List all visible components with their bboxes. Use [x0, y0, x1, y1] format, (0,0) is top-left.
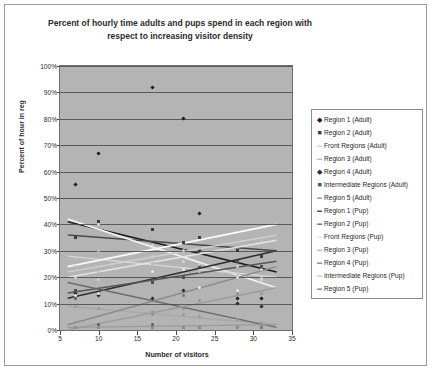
x-tick-label: 5	[58, 335, 62, 342]
data-point	[198, 265, 201, 268]
y-tick-label: 50%	[27, 195, 57, 202]
legend-marker-icon: ▬	[315, 193, 324, 202]
legend-item[interactable]: ▬Region 4 (Pup)	[315, 256, 420, 269]
data-point	[260, 239, 263, 242]
legend-marker-icon: ▬	[315, 206, 324, 215]
data-point	[260, 292, 263, 295]
data-point	[236, 249, 239, 252]
legend-label: Region 3 (Adult)	[324, 155, 372, 162]
x-tick-mark	[253, 331, 254, 335]
legend-label: Front Regions (Pup)	[324, 233, 383, 240]
data-point	[260, 276, 263, 279]
gridline	[60, 277, 292, 278]
legend-label: Region 4 (Pup)	[324, 259, 368, 266]
data-point	[74, 289, 77, 292]
legend-item[interactable]: ▬Region 5 (Pup)	[315, 282, 420, 295]
legend-marker-icon: ▬	[315, 219, 324, 228]
data-point	[97, 292, 100, 295]
data-point	[260, 255, 263, 258]
y-tick-label: 90%	[27, 89, 57, 96]
legend-label: Region 3 (Pup)	[324, 246, 368, 253]
data-point	[74, 326, 77, 329]
legend-item[interactable]: ▬Region 3 (Pup)	[315, 243, 420, 256]
data-point	[182, 313, 185, 316]
legend-item[interactable]: ■Intermediate Regions (Adult)	[315, 178, 420, 191]
x-tick-label: 30	[250, 335, 257, 342]
data-point	[151, 263, 154, 266]
gridline	[60, 251, 292, 252]
data-point	[74, 305, 77, 308]
y-axis-ticks: 0%10%20%30%40%50%60%70%80%90%100%	[21, 65, 57, 331]
legend-marker-icon: ▬	[315, 245, 324, 254]
trend-line	[68, 282, 277, 327]
legend-marker-icon: ▬	[315, 232, 324, 241]
x-tick-mark	[60, 331, 61, 335]
legend-label: Region 5 (Pup)	[324, 285, 368, 292]
chart-frame: Percent of hourly time adults and pups s…	[4, 4, 427, 366]
legend-item[interactable]: ▬Front Regions (Pup)	[315, 230, 420, 243]
y-tick-label: 100%	[27, 63, 57, 70]
x-tick-mark	[176, 331, 177, 335]
legend-item[interactable]: ▬Region 1 (Pup)	[315, 204, 420, 217]
chart-legend: ◆Region 1 (Adult)■Region 2 (Adult)▬Front…	[311, 109, 423, 299]
legend-label: Region 2 (Adult)	[324, 129, 372, 136]
gridline	[60, 172, 292, 173]
data-point	[151, 281, 154, 284]
legend-marker-icon: ▬	[315, 154, 324, 163]
legend-label: Region 2 (Pup)	[324, 220, 368, 227]
x-tick-label: 20	[172, 335, 179, 342]
legend-marker-icon: ■	[315, 180, 324, 189]
x-tick-label: 10	[95, 335, 102, 342]
data-point	[198, 236, 201, 239]
legend-item[interactable]: ▬Region 5 (Adult)	[315, 191, 420, 204]
x-tick-mark	[99, 331, 100, 335]
gridline	[60, 224, 292, 225]
legend-item[interactable]: ▬Front Regions (Adult)	[315, 139, 420, 152]
data-point	[74, 297, 77, 300]
data-point	[260, 268, 263, 271]
x-axis-title: Number of visitors	[59, 350, 295, 359]
data-point	[151, 228, 154, 231]
gridline	[60, 198, 292, 199]
legend-item[interactable]: ■Region 2 (Adult)	[315, 126, 420, 139]
legend-marker-icon: ▬	[315, 284, 324, 293]
gridline	[60, 304, 292, 305]
legend-marker-icon: ▬	[315, 258, 324, 267]
data-point	[182, 241, 185, 244]
data-point	[260, 323, 263, 326]
x-tick-label: 15	[134, 335, 141, 342]
gridline	[60, 66, 292, 67]
data-point	[198, 247, 201, 250]
x-tick-mark	[215, 331, 216, 335]
legend-label: Region 4 (Adult)	[324, 168, 372, 175]
x-tick-label: 35	[288, 335, 295, 342]
data-point	[74, 276, 77, 279]
plot-area	[59, 65, 293, 331]
legend-item[interactable]: ▬Region 3 (Adult)	[315, 152, 420, 165]
legend-label: Region 1 (Pup)	[324, 207, 368, 214]
legend-marker-icon: ▬	[315, 141, 324, 150]
legend-item[interactable]: ◆Region 1 (Adult)	[315, 113, 420, 126]
legend-label: Front Regions (Adult)	[324, 142, 387, 149]
legend-item[interactable]: ◆Region 4 (Adult)	[315, 165, 420, 178]
legend-label: Intermediate Regions (Adult)	[324, 181, 408, 188]
y-tick-label: 10%	[27, 300, 57, 307]
legend-item[interactable]: ▬Region 2 (Pup)	[315, 217, 420, 230]
data-point	[198, 286, 201, 289]
x-tick-mark	[137, 331, 138, 335]
legend-marker-icon: ◆	[315, 167, 324, 176]
y-tick-label: 70%	[27, 142, 57, 149]
y-tick-label: 80%	[27, 115, 57, 122]
legend-label: Region 1 (Adult)	[324, 116, 372, 123]
legend-label: Intermediate Regions (Pup)	[324, 272, 405, 279]
legend-label: Region 5 (Adult)	[324, 194, 372, 201]
legend-item[interactable]: ▬Intermediate Regions (Pup)	[315, 269, 420, 282]
data-point	[260, 326, 263, 329]
legend-marker-icon: ▬	[315, 271, 324, 280]
chart-title: Percent of hourly time adults and pups s…	[45, 17, 315, 43]
data-point	[198, 263, 201, 266]
data-point	[151, 255, 154, 258]
y-tick-label: 40%	[27, 221, 57, 228]
data-point	[182, 276, 185, 279]
y-tick-label: 20%	[27, 274, 57, 281]
